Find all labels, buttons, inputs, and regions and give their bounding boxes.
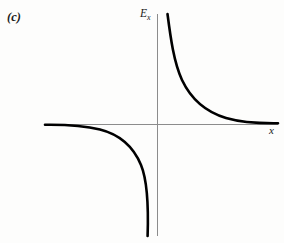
figure-panel-c: (c) Ex x (0, 0, 284, 243)
plot-area (0, 0, 284, 243)
curve-branch-upper-right (168, 14, 279, 123)
y-axis-label-base: E (140, 7, 147, 19)
curve-branch-lower-left (45, 125, 148, 236)
y-axis-label-subscript: x (147, 13, 151, 22)
y-axis-label: Ex (140, 8, 151, 22)
x-axis-label: x (269, 125, 274, 136)
